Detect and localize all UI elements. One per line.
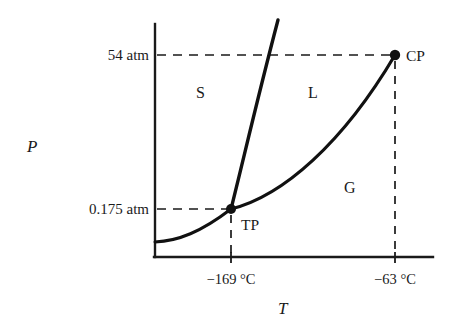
region-label-gas: G	[344, 180, 356, 196]
triple-point-label: TP	[241, 217, 259, 233]
x-tick-label-minus-63-c: −63 °C	[345, 272, 445, 287]
x-axis-title: T	[278, 300, 287, 317]
region-label-liquid: L	[308, 85, 318, 101]
y-axis-title: P	[27, 138, 37, 155]
y-tick-label-0175-atm: 0.175 atm	[89, 202, 149, 217]
critical-point-marker	[390, 50, 400, 60]
region-label-solid: S	[196, 85, 205, 101]
critical-point-label: CP	[406, 48, 425, 64]
phase-diagram-figure: 54 atm 0.175 atm −169 °C −63 °C S L G TP…	[0, 0, 459, 332]
sublimation-curve	[155, 209, 231, 242]
vaporization-curve	[231, 55, 395, 209]
x-tick-label-minus-169-c: −169 °C	[174, 272, 288, 287]
triple-point-marker	[226, 204, 236, 214]
y-tick-label-54-atm: 54 atm	[108, 48, 149, 63]
fusion-curve	[231, 20, 278, 209]
